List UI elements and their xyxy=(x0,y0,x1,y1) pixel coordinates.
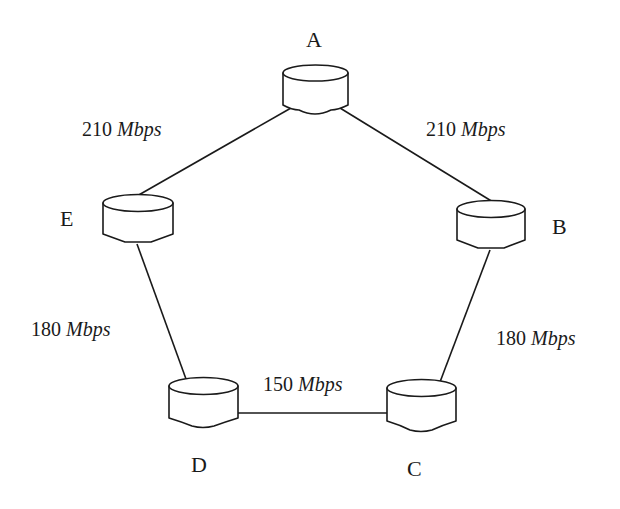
node-label-e: E xyxy=(60,206,73,231)
bandwidth-label-b-c: 180 Mbps xyxy=(496,327,576,350)
router-top xyxy=(169,378,238,395)
bandwidth-label-d-c: 150 Mbps xyxy=(263,373,343,396)
router-e[interactable] xyxy=(103,195,173,243)
bandwidth-value: 180 xyxy=(31,318,61,340)
bandwidth-unit: Mbps xyxy=(65,318,111,341)
bandwidth-label-e-d: 180 Mbps xyxy=(31,318,111,341)
router-top xyxy=(457,201,525,218)
router-top xyxy=(103,195,173,212)
router-c[interactable] xyxy=(387,380,456,432)
node-label-d: D xyxy=(191,452,207,477)
router-top xyxy=(283,65,348,81)
bandwidth-value: 210 xyxy=(82,118,112,140)
network-diagram: A B C D E 210 Mbps 210 Mbps 180 Mbps 180… xyxy=(0,0,620,509)
router-a[interactable] xyxy=(283,65,348,114)
bandwidth-value: 210 xyxy=(426,118,456,140)
bandwidth-unit: Mbps xyxy=(460,118,506,141)
bandwidth-label-a-e: 210 Mbps xyxy=(82,118,162,141)
node-label-b: B xyxy=(552,214,567,239)
bandwidth-unit: Mbps xyxy=(297,373,343,396)
bandwidth-unit: Mbps xyxy=(530,327,576,350)
bandwidth-value: 150 xyxy=(263,373,293,395)
router-b[interactable] xyxy=(457,201,525,249)
node-label-c: C xyxy=(407,456,422,481)
link-e-d xyxy=(137,244,186,379)
router-d[interactable] xyxy=(169,378,238,428)
links xyxy=(137,108,493,413)
node-label-a: A xyxy=(306,27,322,52)
bandwidth-label-a-b: 210 Mbps xyxy=(426,118,506,141)
bandwidth-unit: Mbps xyxy=(116,118,162,141)
bandwidth-value: 180 xyxy=(496,327,526,349)
link-b-c xyxy=(440,250,490,382)
router-top xyxy=(387,380,456,397)
